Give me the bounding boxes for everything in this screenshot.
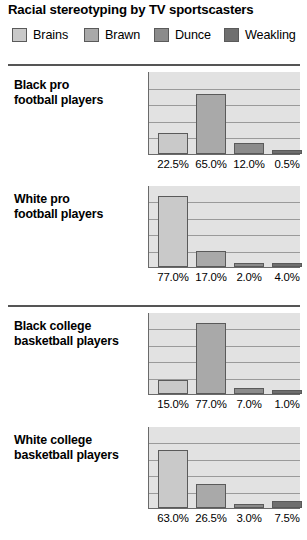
bar-brains: [158, 133, 188, 154]
chart-figure: Racial stereotyping by TV sportscasters …: [0, 0, 307, 540]
gridline: [148, 443, 300, 444]
bar-brains: [158, 196, 188, 267]
bar-brains: [158, 450, 188, 508]
plot-area: [148, 72, 300, 155]
legend-item-brawn: Brawn: [84, 26, 140, 44]
legend-swatch-brains: [12, 28, 27, 42]
value-label: 7.0%: [229, 398, 269, 410]
legend-label: Dunce: [175, 28, 211, 42]
bar-dunce: [234, 388, 264, 394]
y-axis-line: [148, 313, 149, 395]
bar-weakling: [272, 390, 302, 394]
value-label: 77.0%: [191, 398, 231, 410]
legend-item-weakling: Weakling: [224, 26, 296, 44]
legend-item-dunce: Dunce: [154, 26, 211, 44]
bar-dunce: [234, 504, 264, 508]
chart-title: Racial stereotyping by TV sportscasters: [8, 2, 303, 17]
group-divider-top: [8, 64, 300, 66]
panel-label-line1: White college: [14, 433, 142, 448]
plot-area: [148, 313, 300, 395]
value-label: 26.5%: [191, 512, 231, 524]
baseline: [148, 508, 300, 509]
panel-label-line2: football players: [14, 207, 142, 222]
panel-label-line1: Black pro: [14, 78, 142, 93]
panel-label-line1: White pro: [14, 192, 142, 207]
legend-label: Brains: [33, 28, 68, 42]
value-label: 0.5%: [267, 158, 307, 170]
legend-swatch-weakling: [224, 28, 239, 42]
bar-dunce: [234, 263, 264, 267]
legend-label: Weakling: [245, 28, 296, 42]
value-label: 17.0%: [191, 271, 231, 283]
value-label: 65.0%: [191, 158, 231, 170]
baseline: [148, 267, 300, 268]
panel-label: Black profootball players: [14, 78, 142, 108]
panel-label-line1: Black college: [14, 319, 142, 334]
panel-label: Black collegebasketball players: [14, 319, 142, 349]
chart-legend: BrainsBrawnDunceWeakling: [12, 26, 304, 44]
bar-weakling: [272, 263, 302, 267]
value-label: 1.0%: [267, 398, 307, 410]
y-axis-line: [148, 427, 149, 509]
legend-item-brains: Brains: [12, 26, 68, 44]
group-divider-middle: [8, 305, 300, 307]
value-label: 12.0%: [229, 158, 269, 170]
bar-brawn: [196, 484, 226, 508]
baseline: [148, 154, 300, 155]
bar-dunce: [234, 143, 264, 154]
bar-brawn: [196, 251, 226, 267]
value-label-row: 77.0%17.0%2.0%4.0%: [148, 271, 300, 285]
value-label-row: 15.0%77.0%7.0%1.0%: [148, 398, 300, 412]
plot-area: [148, 427, 300, 509]
value-label: 7.5%: [267, 512, 307, 524]
gridline: [148, 89, 300, 90]
legend-swatch-brawn: [84, 28, 99, 42]
panel-label-line2: basketball players: [14, 448, 142, 463]
baseline: [148, 394, 300, 395]
bar-weakling: [272, 501, 302, 508]
bar-brains: [158, 380, 188, 394]
value-label: 3.0%: [229, 512, 269, 524]
panel-label: White collegebasketball players: [14, 433, 142, 463]
bar-weakling: [272, 150, 302, 154]
panel-label-line2: football players: [14, 93, 142, 108]
value-label: 15.0%: [153, 398, 193, 410]
bar-brawn: [196, 94, 226, 154]
value-label: 22.5%: [153, 158, 193, 170]
panel-label: White profootball players: [14, 192, 142, 222]
y-axis-line: [148, 72, 149, 155]
value-label-row: 63.0%26.5%3.0%7.5%: [148, 512, 300, 526]
legend-swatch-dunce: [154, 28, 169, 42]
panel-label-line2: basketball players: [14, 334, 142, 349]
value-label: 63.0%: [153, 512, 193, 524]
plot-area: [148, 186, 300, 268]
value-label: 77.0%: [153, 271, 193, 283]
value-label: 4.0%: [267, 271, 307, 283]
value-label: 2.0%: [229, 271, 269, 283]
legend-label: Brawn: [105, 28, 140, 42]
bar-brawn: [196, 323, 226, 394]
y-axis-line: [148, 186, 149, 268]
value-label-row: 22.5%65.0%12.0%0.5%: [148, 158, 300, 172]
